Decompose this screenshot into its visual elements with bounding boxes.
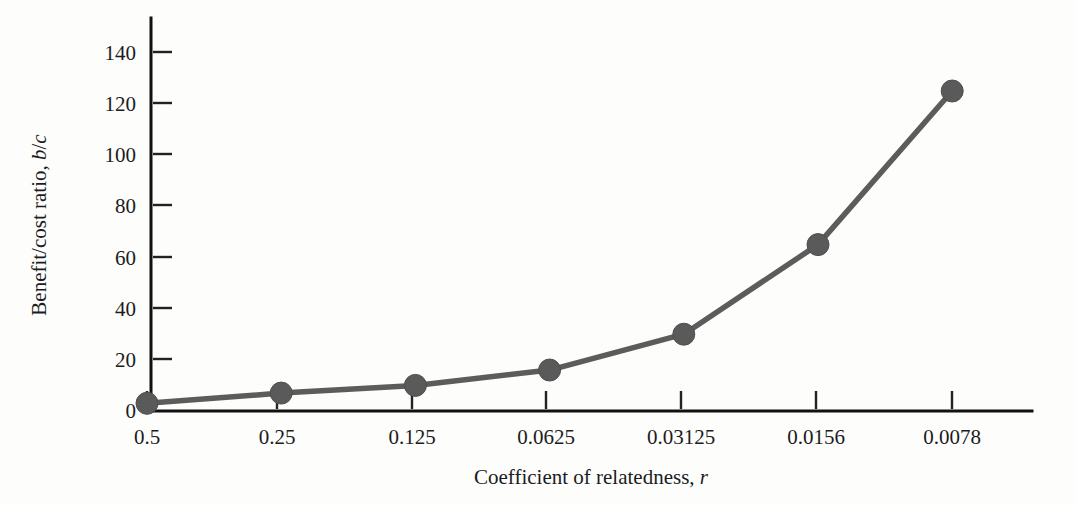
data-point-marker-2 [404,374,426,396]
y-tick-label-140: 140 [105,41,137,65]
y-tick-label-0: 0 [126,399,137,423]
data-series-line [147,91,952,403]
x-tick-label-2: 0.125 [388,425,435,449]
x-tick-labels-group: 0.5 0.25 0.125 0.0625 0.03125 0.0156 0.0… [134,425,981,449]
data-point-marker-4 [673,323,695,345]
y-axis-title: Benefit/cost ratio, b/c [27,134,51,316]
y-tick-label-120: 120 [105,92,137,116]
data-point-marker-0 [136,392,158,414]
data-point-marker-6 [941,80,963,102]
x-tick-label-1: 0.25 [259,425,296,449]
y-tick-labels-group: 140 120 100 80 60 40 20 0 [105,41,137,423]
y-tick-label-60: 60 [115,246,136,270]
x-tick-label-4: 0.03125 [647,425,715,449]
axes-group [150,18,1032,411]
data-point-marker-5 [807,234,829,256]
data-series-markers [136,80,963,414]
data-point-marker-3 [539,359,561,381]
y-axis-title-variable-b: b [27,149,51,160]
x-axis-title: Coefficient of relatedness, r [474,465,709,489]
y-axis-title-variable-c: c [27,134,51,144]
chart-figure: 140 120 100 80 60 40 20 0 0.5 0.25 0.125… [0,0,1076,505]
x-tick-label-5: 0.0156 [787,425,845,449]
data-point-marker-1 [270,382,292,404]
y-tick-label-40: 40 [115,297,136,321]
y-axis-title-text: Benefit/cost ratio, [27,165,51,315]
x-axis-title-text: Coefficient of relatedness, [474,465,695,489]
x-tick-label-6: 0.0078 [923,425,981,449]
y-tick-label-100: 100 [105,143,137,167]
y-tick-marks-group [153,52,172,359]
x-axis-title-variable: r [700,465,709,489]
y-tick-label-20: 20 [115,348,136,372]
x-tick-label-3: 0.0625 [517,425,575,449]
x-tick-label-0: 0.5 [134,425,160,449]
y-tick-label-80: 80 [115,194,136,218]
line-chart-canvas: 140 120 100 80 60 40 20 0 0.5 0.25 0.125… [0,0,1076,505]
